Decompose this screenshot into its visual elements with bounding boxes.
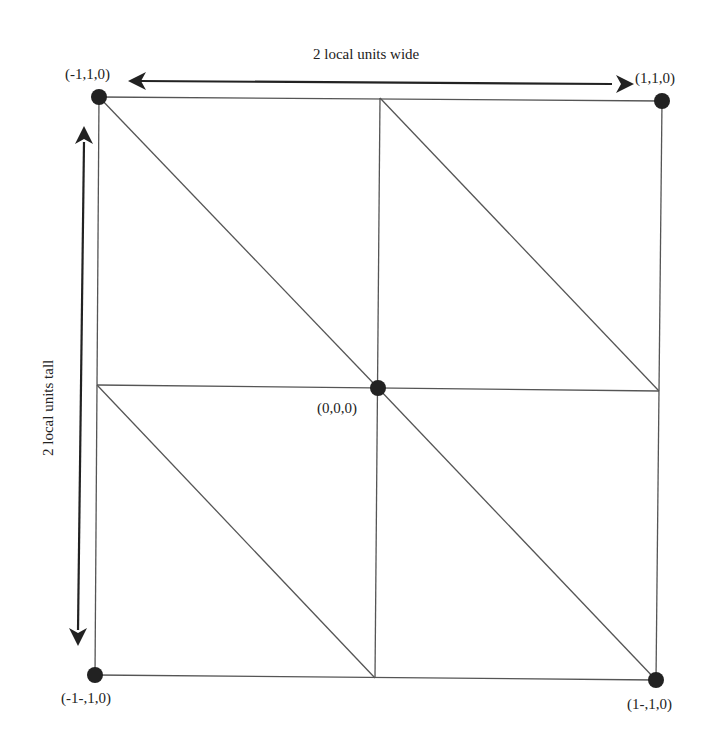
vertex-dot-top-left xyxy=(91,89,107,105)
vertex-dot-top-right xyxy=(654,93,670,109)
vertex-dot-center xyxy=(370,380,386,396)
vertex-label-top-left: (-1,1,0) xyxy=(65,66,110,83)
mesh-vertices xyxy=(87,89,670,688)
height-arrow-shaft xyxy=(78,142,84,630)
vertex-label-top-right: (1,1,0) xyxy=(635,70,675,87)
vertex-dot-bottom-left xyxy=(87,667,103,683)
vertex-dot-bottom-right xyxy=(648,672,664,688)
diagonal-top-left-cell xyxy=(99,97,378,388)
arrow-up-icon xyxy=(75,126,93,144)
height-label: 2 local units tall xyxy=(40,360,56,456)
width-arrow-shaft xyxy=(140,81,612,84)
vertex-label-bottom-left: (-1-,1,0) xyxy=(61,690,111,707)
height-dimension-arrow xyxy=(69,126,93,646)
vertex-label-bottom-right: (1-,1,0) xyxy=(627,696,672,713)
arrow-down-icon xyxy=(69,628,87,646)
width-label: 2 local units wide xyxy=(313,46,420,62)
arrow-right-icon xyxy=(616,75,634,93)
diagonal-bottom-right-cell xyxy=(378,388,656,680)
mesh-diagram: 2 local units wide 2 local units tall (-… xyxy=(0,0,718,747)
diagonal-bottom-left-cell xyxy=(97,385,375,678)
diagonal-top-right-cell xyxy=(380,98,659,391)
width-dimension-arrow xyxy=(128,72,634,93)
vertex-label-center: (0,0,0) xyxy=(317,400,357,417)
